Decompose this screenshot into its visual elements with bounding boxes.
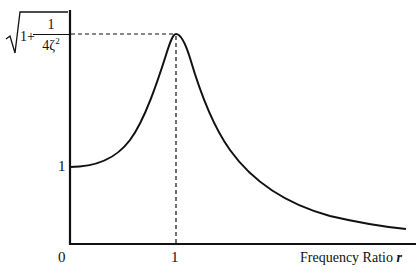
y-peak-fraction: 1 4ζ2 xyxy=(33,17,69,54)
x-axis-title: Frequency Ratio r xyxy=(300,251,402,265)
response-curve xyxy=(70,34,406,229)
y-peak-numerator: 1 xyxy=(33,17,69,35)
origin-label: 0 xyxy=(58,250,66,265)
x-tick-1: 1 xyxy=(171,250,179,265)
y-peak-denominator: 4ζ2 xyxy=(33,35,69,54)
y-peak-denominator-exp: 2 xyxy=(55,36,60,46)
x-axis-var: r xyxy=(396,250,401,265)
y-peak-label: 1+ 1 4ζ2 xyxy=(4,9,68,57)
y-peak-denominator-base: 4ζ xyxy=(42,38,55,53)
y-tick-1: 1 xyxy=(58,159,66,174)
x-axis-title-text: Frequency Ratio xyxy=(300,250,393,265)
